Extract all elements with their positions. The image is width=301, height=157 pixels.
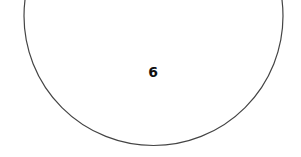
node-label: 6 xyxy=(148,64,158,80)
diagram-canvas: 6 xyxy=(0,0,301,157)
